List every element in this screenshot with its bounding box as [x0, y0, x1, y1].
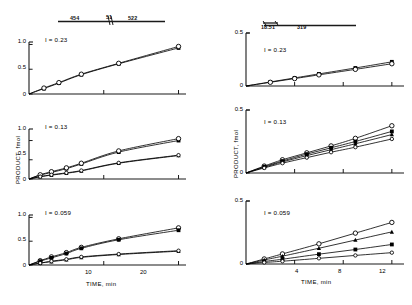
condition-label-left-middle: I = 0.13	[45, 123, 67, 130]
plot-left-middle	[0, 112, 206, 198]
ytick-left-middle-1: 0.5	[7, 150, 26, 156]
plot-left-bottom	[0, 198, 206, 303]
panel-left-middle: I = 0.13 PRODUCT, fmol 1.0 0.5 0	[0, 112, 206, 198]
plot-left-top	[0, 30, 206, 112]
plot-right-bottom	[206, 190, 412, 302]
xtick-right-bottom-1: 4	[295, 268, 298, 274]
ytick-right-bottom-0: 0	[224, 260, 243, 266]
left-scale-label-1: 51	[106, 14, 112, 20]
xtick-right-bottom-2: 8	[338, 268, 341, 274]
x-axis-label-left: TIME, min	[86, 281, 116, 287]
condition-label-right-bottom: I = 0.059	[264, 209, 290, 216]
ytick-left-bottom-0: 0	[7, 262, 26, 268]
x-axis-label-right: TIME, min	[301, 279, 331, 285]
left-column: 454 51 522 I = 0.23 1.0 0.5 0 I = 0.13 P…	[0, 0, 206, 305]
condition-label-right-top: I = 0.23	[264, 46, 286, 53]
ytick-left-top-1: 0.5	[7, 64, 26, 70]
ytick-left-bottom-2: 1.0	[7, 211, 26, 217]
ytick-left-bottom-1: 0.5	[7, 236, 26, 242]
ytick-left-middle-0: 0	[7, 176, 26, 182]
panel-right-bottom: I = 0.059 0.5 0 4 8 12 TIME, min	[206, 190, 412, 302]
xtick-left-bottom-1: 10	[85, 269, 92, 275]
condition-label-left-bottom: I = 0.059	[45, 209, 71, 216]
right-column: 18.51 319 I = 0.23 0.5 0 I = 0.13 PRODUC…	[206, 0, 412, 305]
panel-left-top: I = 0.23 1.0 0.5 0	[0, 30, 206, 112]
left-scale-label-2: 522	[128, 15, 137, 21]
panel-left-bottom: I = 0.059 1.0 0.5 0 10 20 TIME, min	[0, 198, 206, 303]
ytick-left-top-0: 0	[7, 91, 26, 97]
xtick-right-bottom-3: 12	[379, 268, 386, 274]
left-scale-label-0: 454	[70, 15, 79, 21]
condition-label-right-middle: I = 0.13	[264, 118, 286, 125]
panel-right-middle: I = 0.13 PRODUCT, fmol 0.5 0	[206, 104, 412, 190]
xtick-left-bottom-2: 20	[140, 269, 147, 275]
ytick-right-middle-1: 0.5	[224, 106, 243, 112]
panel-right-top: I = 0.23 0.5 0	[206, 20, 412, 100]
ytick-right-top-1: 0.5	[224, 29, 243, 35]
ytick-left-top-2: 1.0	[7, 38, 26, 44]
ytick-left-middle-2: 1.0	[7, 125, 26, 131]
condition-label-left-top: I = 0.23	[45, 36, 67, 43]
left-scale-bar-line	[0, 0, 206, 32]
figure-panel-grid: 454 51 522 I = 0.23 1.0 0.5 0 I = 0.13 P…	[0, 0, 412, 305]
left-scale-bar-group: 454 51 522	[0, 0, 206, 32]
ytick-right-top-0: 0	[224, 82, 243, 88]
ytick-right-middle-0: 0	[224, 169, 243, 175]
ytick-right-bottom-1: 0.5	[224, 197, 243, 203]
